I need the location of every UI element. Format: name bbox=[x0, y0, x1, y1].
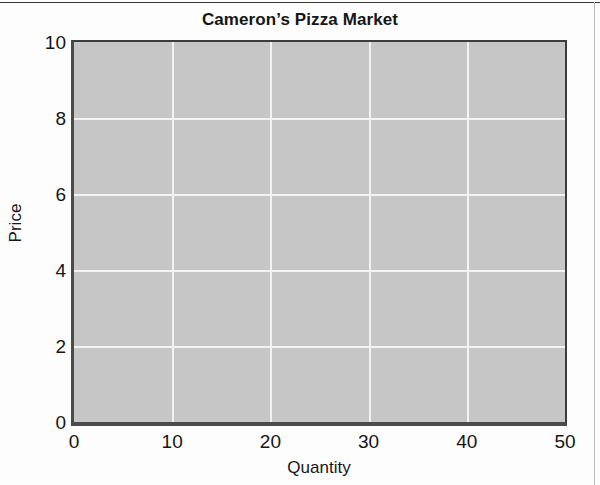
gridline-horizontal bbox=[74, 194, 565, 196]
x-tick-label: 0 bbox=[44, 432, 104, 451]
gridline-horizontal bbox=[74, 270, 565, 272]
gridline-vertical bbox=[467, 42, 469, 422]
y-tick-label: 8 bbox=[26, 109, 66, 128]
x-axis-ticks: 01020304050 bbox=[71, 432, 567, 458]
plot-area bbox=[71, 40, 567, 426]
chart-title: Cameron’s Pizza Market bbox=[0, 10, 600, 30]
gridline-vertical bbox=[172, 42, 174, 422]
y-tick-label: 2 bbox=[26, 337, 66, 356]
x-axis-title: Quantity bbox=[71, 458, 567, 478]
y-tick-label: 10 bbox=[26, 33, 66, 52]
x-tick-label: 40 bbox=[437, 432, 497, 451]
gridline-horizontal bbox=[74, 346, 565, 348]
gridline-vertical bbox=[270, 42, 272, 422]
y-tick-label: 6 bbox=[26, 185, 66, 204]
x-tick-label: 30 bbox=[339, 432, 399, 451]
y-tick-label: 0 bbox=[26, 413, 66, 432]
y-tick-label: 4 bbox=[26, 261, 66, 280]
gridlines bbox=[74, 42, 565, 422]
x-tick-label: 20 bbox=[240, 432, 300, 451]
gridline-horizontal bbox=[74, 118, 565, 120]
x-tick-label: 50 bbox=[535, 432, 595, 451]
gridline-vertical bbox=[369, 42, 371, 422]
chart-figure: Cameron’s Pizza Market 0246810 010203040… bbox=[0, 0, 600, 485]
x-tick-label: 10 bbox=[142, 432, 202, 451]
y-axis-title: Price bbox=[6, 183, 26, 263]
